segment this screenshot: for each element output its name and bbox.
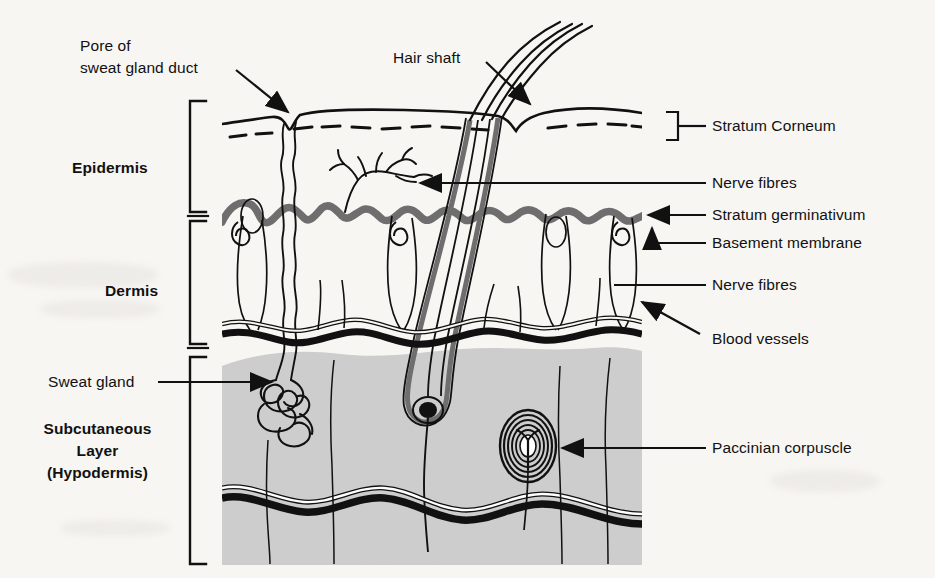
callout-basement-membrane: Basement membrane [712, 233, 862, 252]
callout-nerve-fibres-lower: Nerve fibres [712, 275, 797, 294]
connector-pore [236, 70, 288, 112]
callout-hair-shaft: Hair shaft [393, 48, 460, 67]
callout-blood-vessels: Blood vessels [712, 329, 809, 348]
bracket-dermis [190, 221, 206, 344]
layer-label-epidermis: Epidermis [72, 158, 148, 177]
layer-brackets [188, 101, 208, 564]
stratum-germinativum [222, 203, 642, 223]
subcutaneous-layer-fill [222, 347, 642, 565]
skin-diagram: Pore of sweat gland duct Hair shaft Epid… [0, 0, 935, 578]
callout-pore-line2: sweat gland duct [80, 58, 198, 77]
layer-label-subcutaneous-line1: Subcutaneous [20, 419, 175, 438]
connector-stratum-corneum [666, 112, 706, 140]
hair-shaft [470, 22, 592, 120]
bracket-epidermis [190, 101, 206, 212]
callout-nerve-fibres-upper: Nerve fibres [712, 173, 797, 192]
bracket-subcutaneous [190, 357, 206, 564]
layer-label-subcutaneous-line2: Layer [20, 441, 175, 460]
layer-label-dermis: Dermis [105, 281, 158, 300]
connector-blood-vessels [642, 302, 700, 334]
callout-pore-line1: Pore of [80, 36, 131, 55]
callout-sweat-gland: Sweat gland [48, 372, 134, 391]
callout-stratum-corneum: Stratum Corneum [712, 116, 836, 135]
layer-label-subcutaneous-line3: (Hypodermis) [20, 463, 175, 482]
connector-basement-membrane [652, 228, 706, 243]
callout-paccinian-corpuscle: Paccinian corpuscle [712, 438, 852, 457]
free-nerve-endings [330, 148, 432, 212]
skin-surface [222, 108, 642, 131]
callout-stratum-germinativum: Stratum germinativum [712, 205, 866, 224]
